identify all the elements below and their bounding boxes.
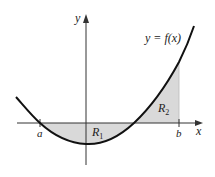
area-diagram: y x a b y = f(x) R1 R2: [0, 0, 215, 177]
point-b-label: b: [176, 127, 182, 139]
y-axis-label: y: [74, 11, 81, 25]
diagram-svg: y x a b y = f(x) R1 R2: [0, 0, 215, 177]
y-axis-arrow-icon: [83, 14, 89, 23]
point-a-label: a: [37, 127, 43, 139]
region-r2-shade: [134, 62, 179, 123]
x-axis-label: x: [195, 124, 202, 138]
curve-label: y = f(x): [144, 31, 181, 45]
